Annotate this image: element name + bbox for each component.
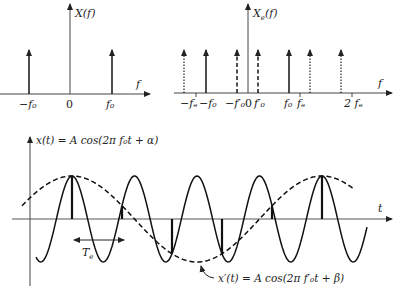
tick-label: f₀ bbox=[283, 97, 293, 110]
freq-axis-label: f bbox=[135, 78, 142, 91]
sample-stems bbox=[72, 176, 322, 254]
spectrum-right: Xe(f) f −fₑ −f₀ −f′₀ 0 f′₀ f₀ fₑ 2 fₑ bbox=[174, 4, 392, 110]
spectrum-title: X(f) bbox=[74, 7, 96, 20]
signal-equation-label: x(t) = A cos(2π f₀t + α) bbox=[36, 134, 158, 146]
tick-label: −f₀ bbox=[199, 97, 217, 110]
tick-label: −f′₀ bbox=[225, 97, 246, 110]
alias-equation-label: x′(t) = A cos(2π f′₀t + β) bbox=[218, 272, 344, 284]
tick-label: 0 bbox=[245, 97, 252, 110]
tick-label: −fₑ bbox=[180, 97, 198, 110]
spectrum-left: X(f) f −f₀ 0 f₀ bbox=[0, 4, 150, 111]
spectrum-title: Xe(f) bbox=[252, 7, 278, 22]
alias-pointer bbox=[201, 266, 214, 278]
tick-label: −f₀ bbox=[19, 98, 37, 111]
time-axis-label: t bbox=[378, 202, 383, 215]
tick-label: 2 fₑ bbox=[343, 97, 363, 110]
tick-label: f₀ bbox=[105, 98, 115, 111]
sampling-aliasing-diagram: X(f) f −f₀ 0 f₀ Xe(f) f −fₑ −f₀ −f′₀ 0 f… bbox=[0, 0, 399, 298]
freq-axis-label: f bbox=[377, 77, 384, 90]
time-plot: t x(t) = A cos(2π f₀t + α) Te x′(t) = A … bbox=[12, 134, 392, 286]
tick-label: fₑ bbox=[296, 97, 305, 110]
period-label: Te bbox=[82, 246, 94, 261]
tick-label: 0 bbox=[66, 98, 73, 111]
tick-label: f′₀ bbox=[253, 97, 266, 110]
